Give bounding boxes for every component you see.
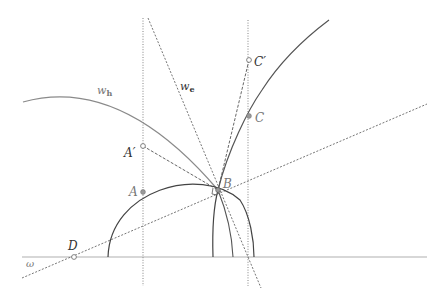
label-omega: ω bbox=[26, 258, 34, 269]
point-a-prime bbox=[141, 144, 146, 149]
w-h-arc bbox=[23, 97, 218, 190]
line-d-b bbox=[22, 104, 427, 278]
label-w-h: wh bbox=[97, 84, 112, 98]
point-b bbox=[216, 188, 221, 193]
geometry-diagram: A′ A B C C′ D ω wh we bbox=[0, 0, 447, 302]
w-e-line bbox=[148, 18, 261, 288]
label-c-prime: C′ bbox=[254, 55, 266, 69]
point-d bbox=[72, 255, 77, 260]
label-c: C bbox=[255, 111, 264, 125]
label-d: D bbox=[67, 239, 78, 253]
label-b: B bbox=[222, 177, 232, 191]
label-a-prime: A′ bbox=[123, 146, 136, 160]
point-c bbox=[247, 114, 252, 119]
segment-c-prime-b bbox=[218, 60, 249, 190]
label-w-h-sub: h bbox=[106, 88, 112, 98]
label-w-e: we bbox=[180, 80, 195, 94]
point-a bbox=[141, 190, 146, 195]
curve-through-c bbox=[218, 20, 329, 190]
point-c-prime bbox=[247, 58, 252, 63]
arc-b-down bbox=[218, 190, 233, 257]
segment-a-prime-b bbox=[143, 146, 218, 190]
label-a: A bbox=[128, 185, 138, 199]
arc-small bbox=[213, 190, 218, 257]
label-w-e-sub: e bbox=[189, 84, 194, 94]
